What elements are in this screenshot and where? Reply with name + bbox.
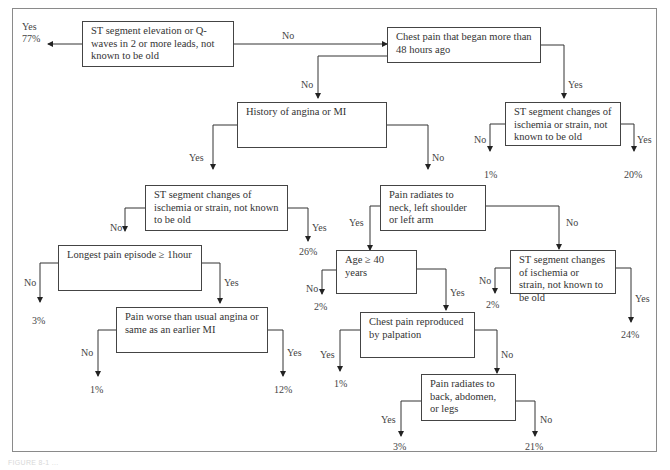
edge-label-no: No: [479, 275, 491, 286]
edge-label-yes: Yes: [287, 347, 302, 358]
node-st-elevation: ST segment elevation or Q-waves in 2 or …: [82, 21, 234, 67]
edge-label-yes: Yes: [637, 134, 652, 145]
outcome-20pct: 20%: [624, 169, 642, 180]
edge-label-no: No: [566, 217, 578, 228]
outcome-2pct: 2%: [486, 299, 499, 310]
node-chest-pain-palpation: Chest pain reproduced by palpation: [360, 312, 475, 358]
edge-label-no: No: [474, 134, 486, 145]
node-pain-radiates-back: Pain radiates to back, abdomen, or legs: [421, 374, 516, 421]
edge-label-yes: Yes: [224, 277, 239, 288]
edge-label-yes: Yes: [320, 349, 335, 360]
node-st-changes-left: ST segment changes of ischemia or strain…: [145, 185, 288, 231]
edge-label-no: No: [110, 222, 122, 233]
edge-label-no: No: [306, 283, 318, 294]
edge-label-yes: Yes: [381, 414, 396, 425]
node-st-changes-mid: ST segment changes of ischemia or strain…: [510, 250, 616, 294]
edge-label-no: No: [282, 30, 294, 41]
edge-label-yes: Yes: [635, 293, 650, 304]
edge-label-no: No: [540, 414, 552, 425]
edge-label-yes: Yes: [189, 152, 204, 163]
outcome-1pct: 1%: [484, 169, 497, 180]
edge-label-no: No: [501, 349, 513, 360]
edge-label-no: No: [301, 79, 313, 90]
node-age-40: Age ≥ 40 years: [336, 250, 417, 294]
outcome-12pct: 12%: [274, 384, 292, 395]
node-history-angina: History of angina or MI: [237, 102, 387, 148]
outcome-3pct: 3%: [393, 441, 406, 452]
figure-caption: FIGURE 8-1 ...: [8, 459, 59, 466]
node-pain-worse: Pain worse than usual angina or same as …: [116, 307, 268, 353]
edge-label-yes: Yes: [450, 287, 465, 298]
node-chest-pain-48h: Chest pain that began more than 48 hours…: [387, 27, 541, 63]
edge-label-no: No: [24, 277, 36, 288]
edge-label-yes: Yes: [22, 21, 37, 32]
outcome-1pct: 1%: [90, 384, 103, 395]
node-st-changes-right: ST segment changes of ischemia or strain…: [505, 102, 621, 146]
outcome-26pct: 26%: [299, 246, 317, 257]
edge-label-yes: Yes: [568, 79, 583, 90]
outcome-21pct: 21%: [525, 441, 543, 452]
outcome-3pct: 3%: [32, 315, 45, 326]
node-longest-pain: Longest pain episode ≥ 1hour: [58, 245, 202, 291]
node-pain-radiates-neck: Pain radiates to neck, left shoulder or …: [380, 185, 486, 231]
edge-label-no: No: [432, 152, 444, 163]
edge-label-yes: Yes: [312, 222, 327, 233]
outcome-77: 77%: [22, 33, 40, 44]
outcome-24pct: 24%: [621, 329, 639, 340]
edge-label-yes: Yes: [349, 217, 364, 228]
edge-label-no: No: [81, 347, 93, 358]
outcome-2pct: 2%: [314, 301, 327, 312]
connector-lines: [0, 0, 670, 470]
outcome-1pct: 1%: [334, 378, 347, 389]
